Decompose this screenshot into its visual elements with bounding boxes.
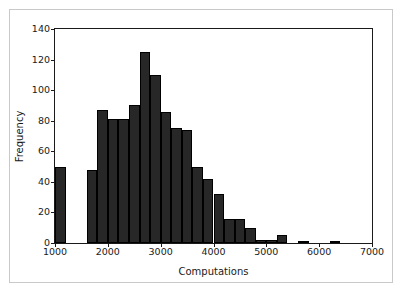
histogram-bar <box>245 228 256 243</box>
x-axis-tick-label: 1000 <box>43 247 67 257</box>
histogram-bar <box>161 112 172 243</box>
y-axis-tick-label: 80 <box>38 116 50 126</box>
histogram-bar <box>298 241 309 243</box>
y-axis-tick <box>51 121 55 122</box>
y-axis-tick <box>51 90 55 91</box>
histogram-bar <box>87 170 98 243</box>
histogram-bars <box>55 29 372 243</box>
x-axis-tick-label: 2000 <box>96 247 120 257</box>
y-axis-tick-label: 140 <box>32 24 50 34</box>
histogram-bar <box>256 240 267 243</box>
figure-canvas: Frequency 020406080100120140100020003000… <box>9 9 393 283</box>
histogram-bar <box>129 105 140 243</box>
y-axis-tick <box>51 60 55 61</box>
histogram-bar <box>203 179 214 243</box>
histogram-bar <box>182 130 193 243</box>
y-axis-tick <box>51 151 55 152</box>
histogram-bar <box>118 119 129 243</box>
histogram-bar <box>266 240 277 243</box>
histogram-bar <box>192 167 203 243</box>
histogram-bar <box>224 219 235 243</box>
histogram-bar <box>235 219 246 243</box>
histogram-bar <box>55 167 66 243</box>
y-axis-tick-label: 20 <box>38 208 50 218</box>
y-axis-tick-label: 60 <box>38 147 50 157</box>
y-axis-tick-label: 40 <box>38 177 50 187</box>
y-axis-tick-label: 120 <box>32 55 50 65</box>
y-axis-tick <box>51 212 55 213</box>
x-axis-tick-label: 7000 <box>360 247 384 257</box>
histogram-bar <box>330 241 341 243</box>
plot-area: 0204060801001201401000200030004000500060… <box>54 28 373 244</box>
x-axis-tick-label: 5000 <box>254 247 278 257</box>
x-axis-title: Computations <box>54 266 373 277</box>
histogram-bar <box>97 110 108 243</box>
histogram-bar <box>171 128 182 243</box>
histogram-bar <box>214 194 225 243</box>
histogram-bar <box>140 52 151 243</box>
x-axis-tick-label: 6000 <box>307 247 331 257</box>
y-axis-title-text: Frequency <box>15 110 26 162</box>
histogram-bar <box>150 75 161 243</box>
x-axis-tick-label: 3000 <box>149 247 173 257</box>
y-axis-title: Frequency <box>13 28 27 244</box>
y-axis-tick-label: 100 <box>32 85 50 95</box>
y-axis-tick <box>51 29 55 30</box>
x-axis-tick-label: 4000 <box>201 247 225 257</box>
histogram-bar <box>108 119 119 243</box>
histogram-bar <box>277 235 288 243</box>
y-axis-tick <box>51 182 55 183</box>
